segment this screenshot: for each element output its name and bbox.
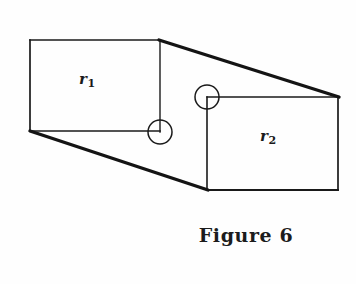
region-label-r1-subscript: 1 (88, 77, 96, 90)
figure-caption: Figure 6 (180, 224, 312, 246)
region-label-r2-subscript: 2 (269, 134, 277, 147)
region-label-r1-base: r (79, 70, 87, 88)
region-label-r1: r1 (79, 70, 95, 90)
region-label-r2: r2 (260, 127, 276, 147)
region-label-r2-base: r (260, 127, 268, 145)
figure-container: r1 r2 Figure 6 (0, 0, 356, 284)
